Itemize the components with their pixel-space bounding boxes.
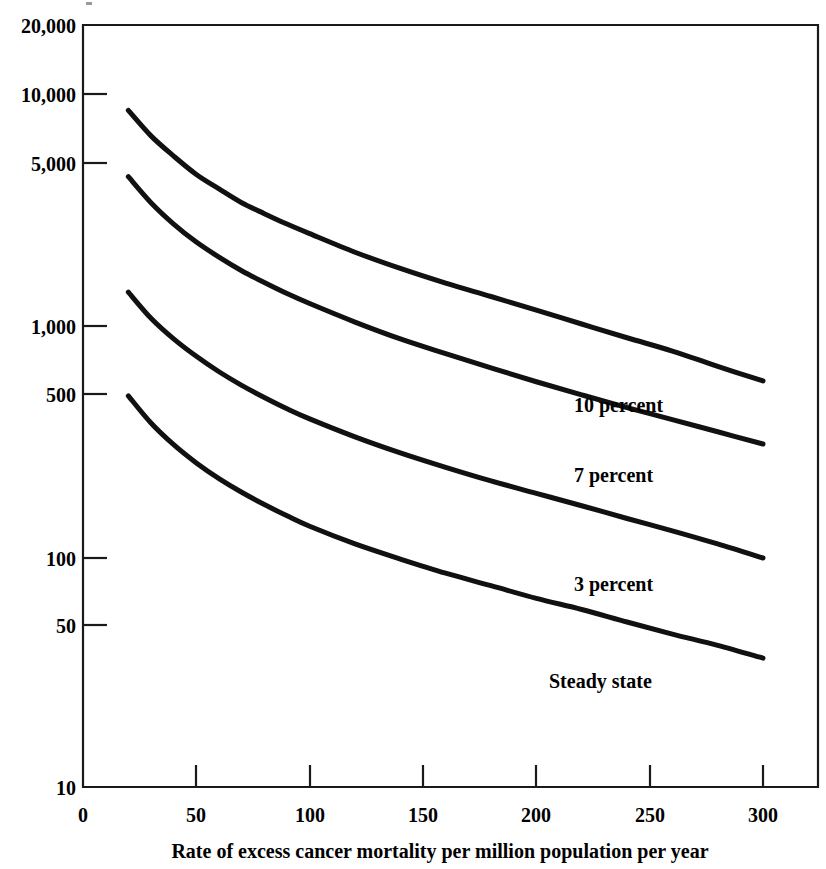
data-curves xyxy=(128,110,763,658)
x-tick-label-0: 0 xyxy=(78,804,88,826)
y-tick-label-50: 50 xyxy=(56,615,76,637)
plot-frame xyxy=(83,25,818,787)
curve-3-percent xyxy=(128,292,763,558)
y-tick-label-5000: 5,000 xyxy=(31,153,76,175)
x-axis-ticks xyxy=(196,765,763,787)
y-tick-label-10: 10 xyxy=(56,777,76,799)
curve-10-percent xyxy=(128,110,763,381)
y-axis-ticks xyxy=(83,94,107,625)
x-tick-label-250: 250 xyxy=(635,804,665,826)
curve-label-10-percent: 10 percent xyxy=(574,394,663,417)
y-tick-label-20000: 20,000 xyxy=(21,15,76,37)
chart-figure: 20,000 10,000 5,000 1,000 500 100 50 10 … xyxy=(0,0,826,869)
curve-label-3-percent: 3 percent xyxy=(574,573,653,596)
curve-7-percent xyxy=(128,177,763,444)
y-tick-label-1000: 1,000 xyxy=(31,316,76,338)
x-tick-label-50: 50 xyxy=(186,804,206,826)
chart-canvas: 20,000 10,000 5,000 1,000 500 100 50 10 … xyxy=(0,0,826,869)
scan-speck xyxy=(86,2,92,5)
x-tick-label-100: 100 xyxy=(295,804,325,826)
curve-label-7-percent: 7 percent xyxy=(574,464,653,487)
x-axis-title: Rate of excess cancer mortality per mill… xyxy=(171,840,708,863)
x-axis-tick-labels: 0 50 100 150 200 250 300 xyxy=(78,804,778,826)
curve-labels: 10 percent 7 percent 3 percent Steady st… xyxy=(549,394,663,693)
y-tick-label-500: 500 xyxy=(46,384,76,406)
y-tick-label-100: 100 xyxy=(46,548,76,570)
y-tick-label-10000: 10,000 xyxy=(21,84,76,106)
y-axis-tick-labels: 20,000 10,000 5,000 1,000 500 100 50 10 xyxy=(21,15,76,799)
x-tick-label-200: 200 xyxy=(521,804,551,826)
curve-label-steady-state: Steady state xyxy=(549,670,652,693)
x-tick-label-150: 150 xyxy=(408,804,438,826)
x-tick-label-300: 300 xyxy=(748,804,778,826)
